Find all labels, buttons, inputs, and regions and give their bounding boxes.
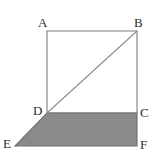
vertex-label-e: E — [3, 137, 11, 150]
vertex-label-a: A — [38, 16, 47, 29]
vertex-label-d: D — [33, 104, 42, 117]
diagonal-line-DB — [47, 31, 137, 113]
geometry-figure: A B C D E F — [0, 0, 154, 160]
vertex-label-b: B — [134, 16, 143, 29]
geometry-canvas — [0, 0, 154, 160]
vertex-label-f: F — [140, 138, 147, 151]
vertex-label-c: C — [140, 106, 149, 119]
